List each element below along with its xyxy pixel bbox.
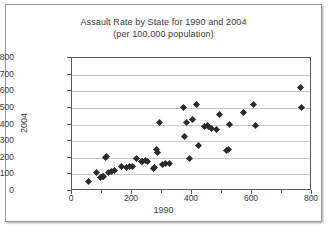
y-tick-mark <box>67 90 71 91</box>
y-tick-label: 200 <box>0 152 14 162</box>
y-tick-mark <box>67 107 71 108</box>
x-tick-label: 200 <box>111 193 151 203</box>
chart-title-line1: Assault Rate by State for 1990 and 2004 <box>6 16 321 28</box>
data-point <box>298 104 305 111</box>
y-tick-mark <box>67 57 71 58</box>
x-axis-label: 1990 <box>6 205 321 215</box>
x-minor-tick-mark <box>281 190 282 193</box>
x-tick-mark <box>311 190 312 194</box>
data-point <box>215 111 222 118</box>
y-tick-mark <box>67 124 71 125</box>
gridline-y <box>72 141 310 142</box>
chart-title-line2: (per 100,000 population) <box>6 28 321 40</box>
gridline-y <box>72 125 310 126</box>
gridline-y <box>72 108 310 109</box>
x-minor-tick-mark <box>161 190 162 193</box>
data-point <box>185 155 192 162</box>
data-point <box>181 133 188 140</box>
gridline-y <box>72 91 310 92</box>
y-tick-label: 300 <box>0 135 14 145</box>
x-tick-label: 600 <box>231 193 271 203</box>
data-point <box>143 158 150 165</box>
y-tick-label: 600 <box>0 85 14 95</box>
x-tick-label: 400 <box>171 193 211 203</box>
y-axis-label: 2004 <box>19 113 29 133</box>
data-point <box>251 122 258 129</box>
x-minor-tick-mark <box>101 190 102 193</box>
data-point <box>212 126 219 133</box>
x-tick-label: 800 <box>291 193 330 203</box>
y-tick-mark <box>67 74 71 75</box>
x-tick-label: 0 <box>51 193 91 203</box>
chart-frame: Assault Rate by State for 1990 and 2004 … <box>5 4 322 222</box>
y-tick-label: 0 <box>0 185 14 195</box>
x-tick-mark <box>191 190 192 194</box>
x-minor-tick-mark <box>221 190 222 193</box>
data-point <box>179 104 186 111</box>
y-tick-label: 800 <box>0 52 14 62</box>
data-point <box>239 109 246 116</box>
data-point <box>154 149 161 156</box>
y-tick-label: 400 <box>0 119 14 129</box>
y-tick-label: 100 <box>0 168 14 178</box>
data-point <box>226 121 233 128</box>
data-point <box>194 142 201 149</box>
x-tick-mark <box>131 190 132 194</box>
data-point <box>85 178 92 185</box>
x-tick-mark <box>251 190 252 194</box>
chart-title: Assault Rate by State for 1990 and 2004 … <box>6 16 321 40</box>
y-tick-label: 500 <box>0 102 14 112</box>
plot-area <box>71 57 311 190</box>
y-tick-label: 700 <box>0 69 14 79</box>
y-tick-mark <box>67 157 71 158</box>
y-tick-mark <box>67 173 71 174</box>
gridline-y <box>72 75 310 76</box>
x-tick-mark <box>71 190 72 194</box>
data-point <box>166 160 173 167</box>
y-tick-mark <box>67 140 71 141</box>
